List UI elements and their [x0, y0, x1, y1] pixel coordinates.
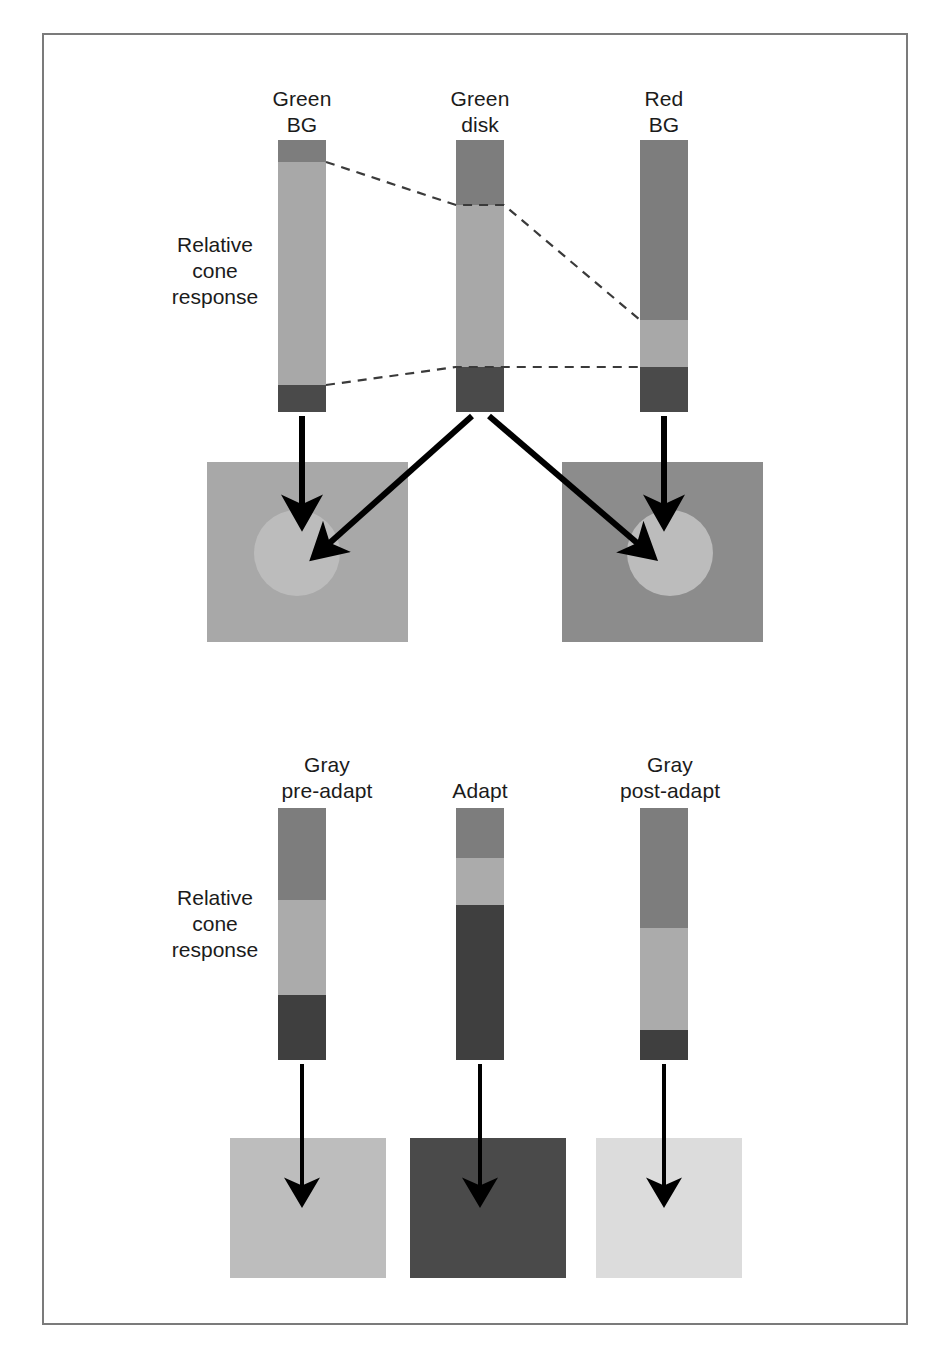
bar-segment-s-cone — [640, 808, 688, 928]
bar-gray-post-adapt — [640, 808, 688, 1060]
column-label-green-disk: Green disk — [420, 86, 540, 138]
bar-segment-s-cone — [456, 808, 504, 858]
bar-segment-s-cone — [640, 140, 688, 320]
bar-segment-m-cone — [456, 858, 504, 905]
bar-gray-pre-adapt — [278, 808, 326, 1060]
axis-label-relative-cone-response-top: Relative cone response — [150, 232, 280, 310]
bar-segment-l-cone — [278, 995, 326, 1060]
bar-segment-s-cone — [278, 140, 326, 162]
bar-adapt — [456, 808, 504, 1060]
bar-segment-m-cone — [278, 900, 326, 995]
bar-segment-s-cone — [278, 808, 326, 900]
green-background-disk — [254, 510, 340, 596]
gray-post-adapt-patch — [596, 1138, 742, 1278]
axis-label-relative-cone-response-bottom: Relative cone response — [150, 885, 280, 963]
bar-red-bg — [640, 140, 688, 412]
column-label-gray-post-adapt: Gray post-adapt — [580, 752, 760, 804]
bar-segment-l-cone — [640, 367, 688, 412]
bar-segment-m-cone — [640, 320, 688, 367]
bar-green-bg — [278, 140, 326, 412]
adapt-patch — [410, 1138, 566, 1278]
bar-segment-m-cone — [456, 205, 504, 367]
red-background-disk — [627, 510, 713, 596]
bar-green-disk — [456, 140, 504, 412]
gray-pre-adapt-patch — [230, 1138, 386, 1278]
bar-segment-l-cone — [278, 385, 326, 412]
green-background-patch — [207, 462, 408, 642]
column-label-gray-pre-adapt: Gray pre-adapt — [242, 752, 412, 804]
bar-segment-l-cone — [640, 1030, 688, 1060]
column-label-adapt: Adapt — [420, 778, 540, 804]
bar-segment-m-cone — [640, 928, 688, 1030]
bar-segment-s-cone — [456, 140, 504, 205]
bar-segment-m-cone — [278, 162, 326, 385]
column-label-red-bg: Red BG — [604, 86, 724, 138]
column-label-green-bg: Green BG — [242, 86, 362, 138]
red-background-patch — [562, 462, 763, 642]
bar-segment-l-cone — [456, 905, 504, 1060]
figure-root: Green BG Green disk Red BG Relative cone… — [0, 0, 938, 1359]
bar-segment-l-cone — [456, 367, 504, 412]
